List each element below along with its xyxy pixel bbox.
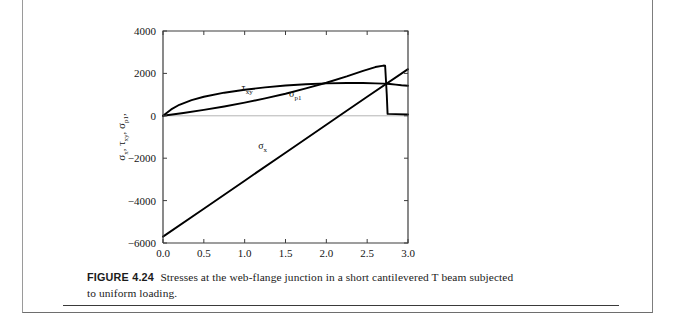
curve-label-τxy: τxy bbox=[242, 82, 254, 96]
x-tick-label: 1.5 bbox=[279, 247, 293, 259]
y-tick-label: −6000 bbox=[128, 237, 157, 249]
plot-area: 0.00.51.01.52.02.53.0 400020000−2000−400… bbox=[63, 6, 463, 264]
curve-labels: τxyσp1σx bbox=[242, 82, 302, 154]
caption-divider-rule bbox=[63, 305, 619, 306]
figure-caption: FIGURE 4.24 Stresses at the web-flange j… bbox=[87, 270, 517, 301]
x-tick-label: 0.0 bbox=[156, 247, 170, 259]
x-tick-label: 2.5 bbox=[360, 247, 374, 259]
x-tick-labels: 0.00.51.01.52.02.53.0 bbox=[156, 247, 415, 259]
page-sheet: 0.00.51.01.52.02.53.0 400020000−2000−400… bbox=[22, 0, 653, 313]
curve-label-σx: σx bbox=[258, 140, 267, 154]
y-axis-title: σx, τxy, σp1, bbox=[115, 113, 130, 161]
y-tick-label: −4000 bbox=[128, 195, 157, 207]
y-tick-label: −2000 bbox=[128, 152, 157, 164]
y-tick-label: 4000 bbox=[134, 25, 157, 37]
stress-plot: 0.00.51.01.52.02.53.0 400020000−2000−400… bbox=[63, 6, 463, 264]
x-tick-label: 2.0 bbox=[319, 247, 333, 259]
y-tick-label: 2000 bbox=[134, 67, 157, 79]
curve-group bbox=[163, 66, 408, 237]
figure-number: FIGURE 4.24 bbox=[87, 271, 160, 283]
y-tick-labels: 400020000−2000−4000−6000 bbox=[128, 25, 157, 249]
curve-σp1 bbox=[163, 66, 408, 116]
figure-block: 0.00.51.01.52.02.53.0 400020000−2000−400… bbox=[23, 0, 654, 313]
x-tick-label: 1.0 bbox=[238, 247, 252, 259]
y-tick-label: 0 bbox=[151, 110, 157, 122]
x-tick-label: 0.5 bbox=[197, 247, 211, 259]
x-tick-label: 3.0 bbox=[401, 247, 415, 259]
